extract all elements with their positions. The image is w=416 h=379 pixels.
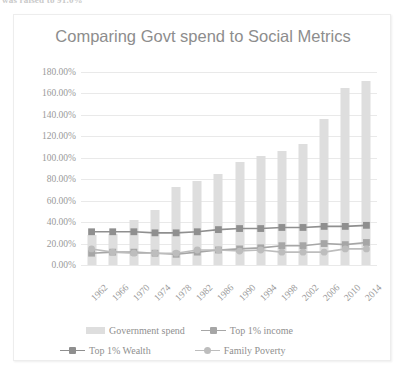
- line-series: [88, 246, 370, 257]
- legend-item[interactable]: Family Poverty: [195, 345, 286, 356]
- legend-label: Family Poverty: [224, 345, 286, 356]
- gridline: [81, 265, 377, 266]
- line-series: [88, 222, 370, 236]
- data-point-marker: [88, 228, 95, 235]
- legend-swatch-bar: [86, 327, 105, 334]
- x-axis-tick-label: 1998: [279, 282, 300, 303]
- clipped-page-text-value: was raised to 91.0%: [2, 0, 83, 5]
- chart-container: Comparing Govt spend to Social Metrics 0…: [13, 14, 391, 361]
- y-axis-tick-label: 0.00%: [51, 260, 76, 270]
- y-axis-tick-label: 100.00%: [42, 153, 76, 163]
- legend-label: Top 1% Wealth: [89, 345, 151, 356]
- x-axis-tick-label: 1974: [152, 282, 173, 303]
- x-axis-tick-label: 1994: [258, 282, 279, 303]
- x-axis-tick-label: 1970: [131, 282, 152, 303]
- legend-item[interactable]: Top 1% Wealth: [60, 345, 151, 356]
- data-point-marker: [363, 246, 370, 253]
- data-point-marker: [321, 223, 328, 230]
- x-axis-tick-label: 2006: [321, 282, 342, 303]
- data-point-marker: [88, 246, 95, 253]
- legend-item[interactable]: Government spend: [86, 325, 185, 336]
- chart-title: Comparing Govt spend to Social Metrics: [32, 25, 374, 47]
- data-point-marker: [278, 224, 285, 231]
- legend-label: Government spend: [109, 325, 185, 336]
- data-point-marker: [215, 247, 222, 254]
- line-series-overlay: [81, 72, 377, 265]
- data-point-marker: [152, 250, 159, 257]
- legend-swatch-marker: [69, 347, 76, 354]
- legend-row: Government spendTop 1% income: [60, 320, 360, 340]
- y-axis-tick-label: 20.00%: [47, 239, 76, 249]
- data-point-marker: [363, 239, 370, 246]
- data-point-marker: [152, 229, 159, 236]
- data-point-marker: [130, 250, 137, 257]
- data-point-marker: [194, 247, 201, 254]
- x-axis-tick-label: 1962: [89, 282, 110, 303]
- x-axis-tick-label: 1990: [237, 282, 258, 303]
- data-point-marker: [257, 247, 264, 254]
- legend-row: Top 1% WealthFamily Poverty: [60, 340, 360, 360]
- legend-swatch-line: [201, 326, 226, 335]
- legend-swatch-marker: [210, 327, 217, 334]
- line-series: [88, 239, 370, 258]
- x-axis-tick-label: 1978: [173, 282, 194, 303]
- x-axis-tick-label: 1986: [216, 282, 237, 303]
- data-point-marker: [300, 224, 307, 231]
- y-axis-tick-label: 140.00%: [42, 110, 76, 120]
- data-point-marker: [215, 226, 222, 233]
- legend-item[interactable]: Top 1% income: [201, 325, 293, 336]
- data-point-marker: [257, 225, 264, 232]
- x-axis-tick-label: 1966: [110, 282, 131, 303]
- y-axis-tick-label: 60.00%: [47, 196, 76, 206]
- y-axis-tick-label: 40.00%: [47, 217, 76, 227]
- data-point-marker: [321, 240, 328, 247]
- data-point-marker: [109, 249, 116, 256]
- x-axis-tick-label: 2010: [342, 282, 363, 303]
- plot-area: 0.00%20.00%40.00%60.00%80.00%100.00%120.…: [81, 72, 377, 265]
- data-point-marker: [363, 222, 370, 229]
- data-point-marker: [278, 249, 285, 256]
- data-point-marker: [278, 242, 285, 249]
- data-point-marker: [173, 229, 180, 236]
- legend-label: Top 1% income: [230, 325, 293, 336]
- y-axis-tick-label: 120.00%: [42, 131, 76, 141]
- data-point-marker: [109, 228, 116, 235]
- y-axis-tick-label: 160.00%: [42, 88, 76, 98]
- data-point-marker: [130, 228, 137, 235]
- data-point-marker: [342, 223, 349, 230]
- y-axis-tick-label: 80.00%: [47, 174, 76, 184]
- data-point-marker: [300, 249, 307, 256]
- data-point-marker: [194, 228, 201, 235]
- clipped-page-text: was raised to 91.0%: [0, 0, 416, 9]
- data-point-marker: [173, 250, 180, 257]
- legend-swatch-marker: [204, 347, 211, 354]
- data-point-marker: [300, 242, 307, 249]
- legend-swatch-line: [195, 346, 220, 355]
- data-point-marker: [236, 248, 243, 255]
- data-point-marker: [321, 249, 328, 256]
- data-point-marker: [236, 225, 243, 232]
- x-axis-tick-label: 2002: [300, 282, 321, 303]
- x-axis-tick-label: 1982: [194, 282, 215, 303]
- y-axis-tick-label: 180.00%: [42, 67, 76, 77]
- legend-swatch-line: [60, 346, 85, 355]
- data-point-marker: [342, 246, 349, 253]
- chart-legend: Government spendTop 1% incomeTop 1% Weal…: [60, 320, 360, 360]
- x-axis-tick-label: 2014: [364, 282, 385, 303]
